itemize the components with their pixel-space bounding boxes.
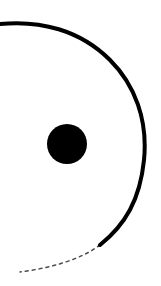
- center-dot: [47, 124, 87, 164]
- brush-arc-fade: [20, 245, 100, 272]
- ink-circle-icon: [0, 0, 161, 286]
